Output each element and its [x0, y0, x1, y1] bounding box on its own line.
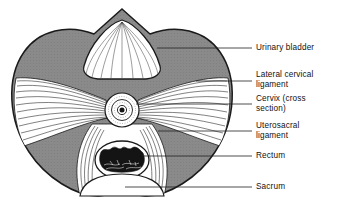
label-uterosacral-ligament: Uterosacral ligament	[256, 121, 300, 140]
label-cervix: Cervix (cross section)	[256, 94, 306, 113]
pelvic-cross-section-figure: Urinary bladder Lateral cervical ligamen…	[0, 0, 339, 218]
rectum	[95, 141, 149, 179]
label-urinary-bladder: Urinary bladder	[256, 43, 314, 53]
label-rectum: Rectum	[256, 151, 285, 161]
label-lateral-cervical-ligament: Lateral cervical ligament	[256, 70, 313, 89]
label-sacrum: Sacrum	[256, 182, 285, 192]
cervix-cross-section	[105, 93, 139, 127]
urinary-bladder	[84, 20, 161, 79]
